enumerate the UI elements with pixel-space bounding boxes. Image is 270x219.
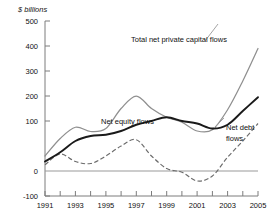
y-tick-label-200: 200 xyxy=(25,92,38,101)
net-equity-flows-label: Net equity flows xyxy=(101,117,154,126)
y-tick-label-0: 0 xyxy=(34,167,38,176)
x-tick-label-2003: 2003 xyxy=(219,201,236,210)
y-tick-label-100: 100 xyxy=(25,117,38,126)
x-tick-label-1999: 1999 xyxy=(158,201,175,210)
x-tick-label-2005: 2005 xyxy=(250,201,267,210)
x-tick-label-1991: 1991 xyxy=(37,201,54,210)
x-axis-ticks xyxy=(45,191,258,196)
x-tick-label-2001: 2001 xyxy=(189,201,206,210)
net-debt-flows-label-line1: Net debt xyxy=(226,123,255,132)
total-net-private-capital-flows-label: Total net private capital flows xyxy=(131,35,227,44)
capital-flows-line-chart: $ billions 500 400 300 200 100 0 -100 xyxy=(0,0,270,219)
x-tick-label-1997: 1997 xyxy=(128,201,145,210)
x-tick-label-1993: 1993 xyxy=(67,201,84,210)
y-axis-title: $ billions xyxy=(17,5,47,14)
y-tick-label-500: 500 xyxy=(25,17,38,26)
net-debt-flows-label-line2: flows xyxy=(226,134,243,143)
chart-container: $ billions 500 400 300 200 100 0 -100 xyxy=(0,0,270,219)
x-tick-label-1995: 1995 xyxy=(98,201,115,210)
y-tick-label-400: 400 xyxy=(25,42,38,51)
y-tick-label-300: 300 xyxy=(25,67,38,76)
series-line-net-debt-flows xyxy=(45,124,258,182)
y-tick-label-minus-100: -100 xyxy=(23,192,38,201)
